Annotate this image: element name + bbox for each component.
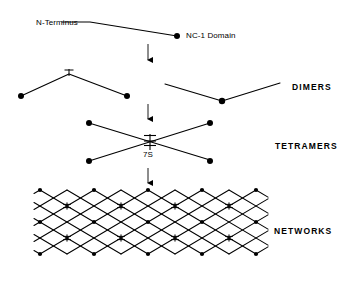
network-nc1-dot bbox=[92, 188, 96, 192]
network-7s-junction bbox=[64, 203, 71, 209]
stage-label-dimers: DIMERS bbox=[292, 82, 332, 92]
network-nc1-dot bbox=[254, 188, 258, 192]
dimer-left-nc1-dot-b bbox=[124, 93, 130, 99]
tetramer-nc1-dot-bl bbox=[86, 158, 92, 164]
network-nc1-dot bbox=[38, 220, 42, 224]
n-terminus-label: N-Terminus bbox=[36, 18, 78, 27]
tetramer-7s-junction bbox=[144, 134, 156, 150]
network-7s-junction bbox=[118, 235, 125, 241]
network-nc1-dot bbox=[146, 252, 150, 256]
network-lattice bbox=[34, 188, 268, 256]
network-nc1-dot bbox=[200, 220, 204, 224]
network-7s-junction bbox=[172, 235, 179, 241]
tetramer-nc1-dot-tl bbox=[86, 120, 92, 126]
network-7s-junction bbox=[118, 203, 125, 209]
network-nc1-dot bbox=[200, 252, 204, 256]
network-7s-junction bbox=[172, 203, 179, 209]
network-strand bbox=[202, 215, 268, 254]
network-nc1-dot bbox=[254, 220, 258, 224]
dimer-right-nc1-dot bbox=[219, 98, 225, 104]
tetramer-nc1-dot-br bbox=[207, 158, 213, 164]
monomer-chain bbox=[62, 22, 177, 36]
network-strand bbox=[34, 190, 67, 210]
dimer-left bbox=[18, 69, 130, 99]
network-7s-junction bbox=[226, 203, 233, 209]
nc1-domain-dot bbox=[174, 33, 180, 39]
network-nc1-dot bbox=[92, 252, 96, 256]
seven-s-label: 7S bbox=[143, 150, 153, 159]
monomer-group bbox=[62, 22, 180, 39]
network-nc1-dot bbox=[200, 188, 204, 192]
network-strand bbox=[175, 199, 268, 254]
network-nc1-dot bbox=[254, 252, 258, 256]
dimer-left-chain bbox=[21, 74, 127, 96]
dimer-right bbox=[165, 83, 280, 104]
network-strand bbox=[34, 190, 121, 242]
network-strand bbox=[202, 190, 268, 229]
dimer-left-nc1-dot-a bbox=[18, 93, 24, 99]
network-nc1-dot bbox=[146, 220, 150, 224]
collagen-assembly-diagram: N-Terminus NC-1 Domain 7S DIMERS TETRAME… bbox=[0, 0, 352, 293]
network-nc1-dot bbox=[146, 188, 150, 192]
stage-label-tetramers: TETRAMERS bbox=[275, 141, 338, 151]
tetramer-nc1-dot-tr bbox=[207, 120, 213, 126]
network-strand bbox=[34, 234, 67, 254]
stage-label-networks: NETWORKS bbox=[274, 226, 332, 236]
network-7s-junction bbox=[64, 235, 71, 241]
network-nc1-dot bbox=[38, 188, 42, 192]
dimers-group bbox=[18, 69, 280, 104]
network-nc1-dot bbox=[92, 220, 96, 224]
network-7s-junction bbox=[226, 235, 233, 241]
network-nc1-dot bbox=[38, 252, 42, 256]
nc1-domain-label: NC-1 Domain bbox=[186, 31, 236, 40]
